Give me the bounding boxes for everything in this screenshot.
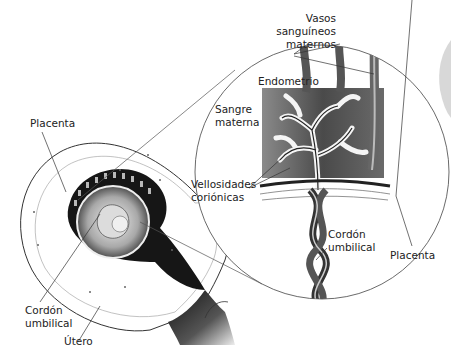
label-vellosidades-corionicas: Vellosidades coriónicas <box>191 178 256 204</box>
edge-shade <box>439 40 451 118</box>
label-vasos-line2: sanguíneos <box>250 25 336 38</box>
label-vellosidades-line1: Vellosidades <box>191 178 256 191</box>
label-vellosidades-line2: coriónicas <box>191 191 256 204</box>
label-cordon-umbilical-uterus: Cordón umbilical <box>25 304 72 330</box>
label-vasos-line3: maternos <box>250 38 336 51</box>
label-cordon-right-line1: Cordón <box>328 228 375 241</box>
label-utero: Útero <box>64 335 93 348</box>
label-sangre-line2: materna <box>215 116 259 129</box>
label-endometrio: Endometrio <box>258 75 319 88</box>
maternal-blood-region <box>262 88 384 178</box>
label-sangre-line1: Sangre <box>215 103 259 116</box>
label-sangre-materna: Sangre materna <box>215 103 259 129</box>
diagram: Vasos sanguíneos maternos Endometrio San… <box>0 0 451 364</box>
label-placenta-uterus: Placenta <box>30 117 75 130</box>
label-cordon-left-line1: Cordón <box>25 304 72 317</box>
maternal-vessel-2 <box>339 30 341 92</box>
label-placenta-magnified: Placenta <box>390 249 435 262</box>
label-vasos-line1: Vasos <box>250 12 336 25</box>
label-cordon-right-line2: umbilical <box>328 241 375 254</box>
label-cordon-left-line2: umbilical <box>25 317 72 330</box>
label-cordon-umbilical-magnified: Cordón umbilical <box>328 228 375 254</box>
label-vasos-sanguineos: Vasos sanguíneos maternos <box>250 12 336 51</box>
